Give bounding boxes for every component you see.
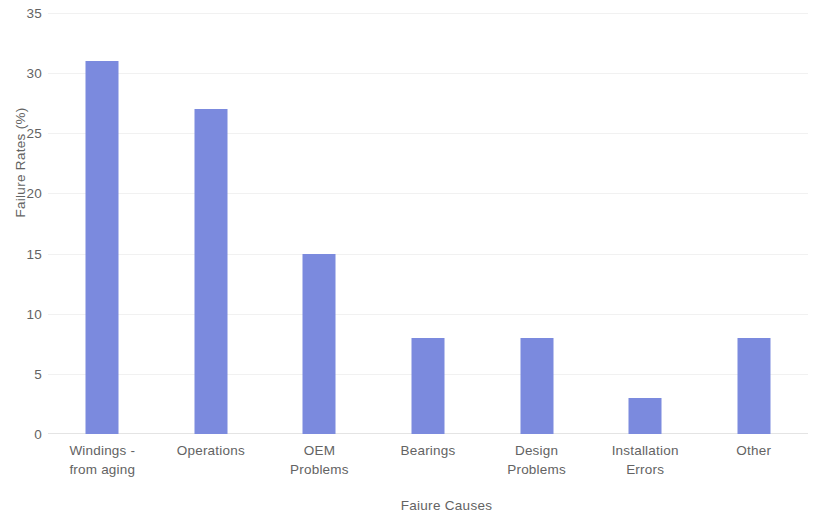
bar-slot bbox=[591, 13, 700, 434]
x-axis-title: Faiure Causes bbox=[0, 498, 815, 513]
x-axis-tick-label-line1: Bearings bbox=[401, 443, 456, 458]
bar-slot bbox=[265, 13, 374, 434]
y-axis-tick-label: 20 bbox=[0, 186, 42, 201]
y-axis-tick-label: 35 bbox=[0, 6, 42, 21]
x-axis-tick-label-line2: Errors bbox=[585, 460, 705, 479]
bar[interactable] bbox=[411, 338, 444, 434]
bar-slot bbox=[374, 13, 483, 434]
y-axis-tick-label: 5 bbox=[0, 366, 42, 381]
y-axis-tick-label: 0 bbox=[0, 427, 42, 442]
y-axis-tick-label: 25 bbox=[0, 126, 42, 141]
bar[interactable] bbox=[520, 338, 553, 434]
bar[interactable] bbox=[303, 254, 336, 434]
x-axis-tick-label-line1: OEM bbox=[304, 443, 335, 458]
x-axis-tick-label: Operations bbox=[151, 441, 271, 460]
x-axis-tick-label-line1: Installation bbox=[612, 443, 679, 458]
bar-slot bbox=[482, 13, 591, 434]
x-axis-tick-label-line1: Design bbox=[515, 443, 558, 458]
x-axis-title-text: Faiure Causes bbox=[401, 498, 493, 513]
x-axis-tick-label-line1: Windings - bbox=[69, 443, 135, 458]
x-axis-tick-labels: Windings -from agingOperationsOEMProblem… bbox=[48, 441, 808, 491]
y-axis-tick-label: 10 bbox=[0, 306, 42, 321]
x-axis-tick-label: Bearings bbox=[368, 441, 488, 460]
bar-series bbox=[48, 13, 808, 434]
x-axis-tick-label-line2: from aging bbox=[42, 460, 162, 479]
x-axis-tick-label-line2: Problems bbox=[477, 460, 597, 479]
y-axis-tick-label: 15 bbox=[0, 246, 42, 261]
bar[interactable] bbox=[737, 338, 770, 434]
plot-area bbox=[48, 13, 808, 434]
bar-chart: Failure Rates (%) 05101520253035 Winding… bbox=[0, 0, 815, 525]
bar[interactable] bbox=[629, 398, 662, 434]
bar-slot bbox=[157, 13, 266, 434]
bar[interactable] bbox=[194, 109, 227, 434]
bar-slot bbox=[48, 13, 157, 434]
x-axis-tick-label: Windings -from aging bbox=[42, 441, 162, 479]
x-axis-tick-label: Other bbox=[694, 441, 814, 460]
x-axis-tick-label-line2: Problems bbox=[259, 460, 379, 479]
bar-slot bbox=[699, 13, 808, 434]
y-axis-tick-labels: 05101520253035 bbox=[0, 13, 42, 434]
x-axis-tick-label-line1: Operations bbox=[177, 443, 245, 458]
x-axis-tick-label: InstallationErrors bbox=[585, 441, 705, 479]
x-axis-tick-label-line1: Other bbox=[736, 443, 771, 458]
y-axis-tick-label: 30 bbox=[0, 66, 42, 81]
bar[interactable] bbox=[86, 61, 119, 434]
x-axis-tick-label: DesignProblems bbox=[477, 441, 597, 479]
x-axis-tick-label: OEMProblems bbox=[259, 441, 379, 479]
